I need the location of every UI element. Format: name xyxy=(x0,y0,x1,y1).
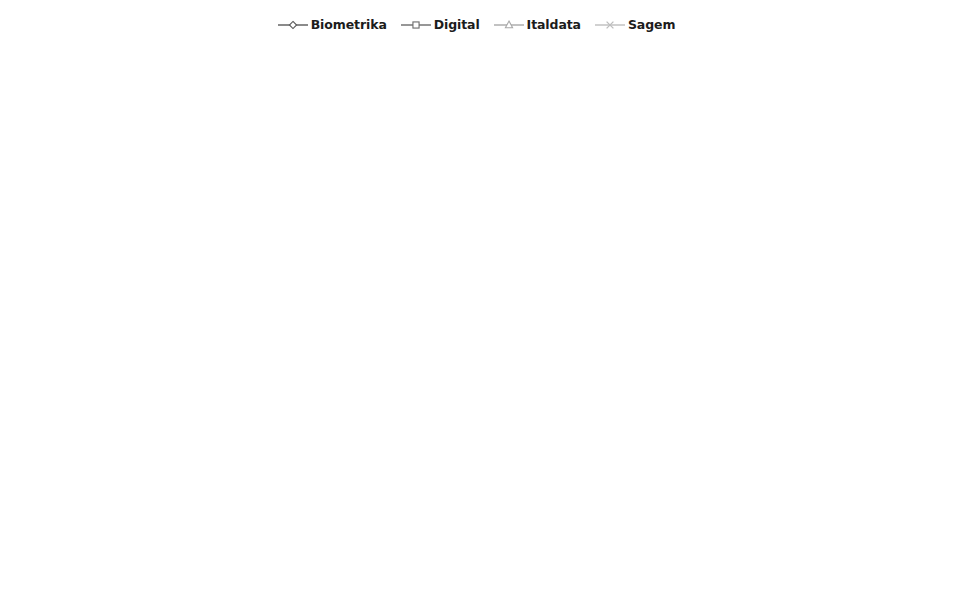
chart-legend: BiometrikaDigitalItaldataSagem xyxy=(0,18,953,32)
diamond-marker-icon xyxy=(278,18,308,32)
figure-multi-panel-ace-chart: BiometrikaDigitalItaldataSagem xyxy=(0,0,953,598)
legend-entry-digital: Digital xyxy=(401,18,480,32)
legend-entry-biometrika: Biometrika xyxy=(278,18,387,32)
legend-entry-italdata: Italdata xyxy=(494,18,581,32)
triangle-marker-icon xyxy=(494,18,524,32)
square-marker-icon xyxy=(401,18,431,32)
legend-label: Digital xyxy=(434,19,480,32)
legend-label: Biometrika xyxy=(311,19,387,32)
legend-label: Sagem xyxy=(628,19,675,32)
x-marker-icon xyxy=(595,18,625,32)
legend-label: Italdata xyxy=(527,19,581,32)
panel-grid xyxy=(0,44,953,598)
legend-entry-sagem: Sagem xyxy=(595,18,675,32)
